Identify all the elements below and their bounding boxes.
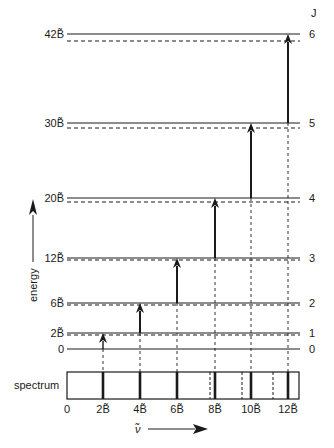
wavenumber-arrowhead-icon — [193, 424, 208, 434]
energy-value-label: 20B̃ — [44, 192, 64, 204]
j-quantum-number-label: 3 — [309, 252, 315, 264]
transition-arrow-J1-to-J2 — [136, 303, 144, 333]
energy-axis-label: energy — [27, 268, 39, 302]
j-quantum-number-label: 6 — [309, 28, 315, 40]
spectrum-tick-label: 10B̃ — [241, 403, 261, 415]
spectrum-label: spectrum — [14, 379, 59, 391]
spectrum-tick-labels: 02B̃4B̃6B̃8B̃10B̃12B̃ — [64, 403, 298, 415]
j-quantum-number-label: 4 — [309, 192, 315, 204]
energy-level-J5: 30B̃5 — [44, 117, 315, 129]
energy-level-J0: 00 — [58, 343, 315, 355]
energy-level-J3: 12B̃3 — [44, 252, 315, 264]
energy-level-J6: 42B̃6 — [44, 28, 315, 41]
j-quantum-number-label: 2 — [309, 297, 315, 309]
transition-arrow-J3-to-J4 — [211, 198, 219, 258]
energy-axis: energy — [27, 199, 39, 302]
spectrum-tick-label: 2B̃ — [96, 403, 109, 415]
energy-level-J1: 2B̃1 — [51, 327, 316, 339]
transition-arrow-J4-to-J5 — [247, 123, 255, 198]
energy-value-label: 6B̃ — [51, 297, 64, 309]
energy-level-diagram: J 002B̃16B̃212B̃320B̃430B̃542B̃6 energy … — [0, 0, 334, 448]
energy-levels: 002B̃16B̃212B̃320B̃430B̃542B̃6 — [44, 28, 315, 355]
spectrum-lines — [103, 372, 288, 399]
energy-value-label: 12B̃ — [44, 252, 64, 264]
transition-arrow-J5-to-J6 — [284, 34, 292, 123]
spectrum-panel: spectrum 02B̃4B̃6B̃8B̃10B̃12B̃ — [14, 372, 299, 415]
spectrum-tick-label: 6B̃ — [170, 403, 183, 415]
wavenumber-axis: ν̃ — [135, 423, 209, 435]
transition-arrow-J2-to-J3 — [173, 258, 181, 303]
energy-level-J4: 20B̃4 — [44, 192, 315, 204]
spectrum-tick-label: 12B̃ — [278, 403, 298, 415]
spectrum-tick-label: 0 — [64, 403, 70, 415]
wavenumber-axis-label: ν̃ — [135, 423, 142, 435]
j-column-header: J — [311, 7, 317, 19]
spectrum-tick-label: 8B̃ — [208, 403, 221, 415]
j-quantum-number-label: 1 — [309, 327, 315, 339]
energy-value-label: 42B̃ — [44, 28, 64, 40]
energy-value-label: 2B̃ — [51, 327, 64, 339]
j-quantum-number-label: 0 — [309, 343, 315, 355]
energy-value-label: 0 — [58, 343, 64, 355]
transition-arrows — [99, 34, 292, 349]
energy-value-label: 30B̃ — [44, 117, 64, 129]
j-quantum-number-label: 5 — [309, 117, 315, 129]
spectrum-tick-label: 4B̃ — [133, 403, 146, 415]
energy-level-J2: 6B̃2 — [51, 297, 316, 309]
energy-axis-arrowhead-icon — [29, 199, 37, 215]
